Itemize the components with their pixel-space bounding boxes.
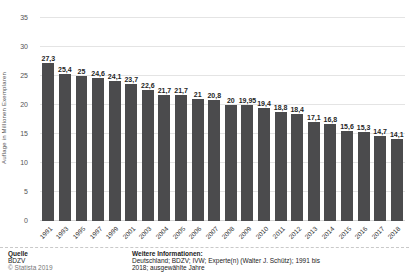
bar-value-label: 20,8 (207, 92, 221, 99)
plot-area: 27,3199125,4199325199524,6199724,1199923… (40, 18, 405, 221)
x-tick-label: 2007 (204, 225, 219, 240)
bar: 25,4 (59, 74, 71, 221)
bar-value-label: 14,7 (373, 128, 387, 135)
bar-slot: 14,12018 (388, 18, 405, 221)
bar-value-label: 24,1 (108, 73, 122, 80)
x-tick-label: 2003 (138, 225, 153, 240)
x-tick-label: 2013 (304, 225, 319, 240)
x-tick-label: 1995 (71, 225, 86, 240)
bar: 21,7 (175, 95, 187, 221)
bar-slot: 19,42010 (256, 18, 273, 221)
bar-value-label: 21,7 (158, 87, 172, 94)
bar-value-label: 27,3 (41, 55, 55, 62)
bar-slot: 15,62015 (339, 18, 356, 221)
bar-value-label: 16,8 (324, 116, 338, 123)
info-heading: Weitere Informationen: (132, 250, 320, 257)
bar-value-label: 25,4 (58, 66, 72, 73)
bar-value-label: 21 (194, 91, 202, 98)
bar-slot: 20,82007 (206, 18, 223, 221)
y-tick-label: 20 (20, 101, 28, 109)
x-tick-label: 2015 (337, 225, 352, 240)
x-tick-label: 1993 (55, 225, 70, 240)
source-name: BDZV (8, 257, 53, 264)
bar-value-label: 21,7 (174, 87, 188, 94)
x-tick-label: 2010 (254, 225, 269, 240)
bar: 15,6 (341, 131, 353, 221)
y-tick-label: 10 (20, 159, 28, 167)
x-tick-label: 2008 (221, 225, 236, 240)
bar-slot: 251995 (73, 18, 90, 221)
bar: 18,4 (291, 114, 303, 221)
bar: 14,1 (391, 139, 403, 221)
bar-slot: 23,72001 (123, 18, 140, 221)
y-tick-label: 30 (20, 43, 28, 51)
x-tick-label: 2006 (187, 225, 202, 240)
info-line2: 2018; ausgewählte Jahre (132, 264, 320, 271)
x-tick-label: 2016 (353, 225, 368, 240)
bar: 21,7 (158, 95, 170, 221)
bar-value-label: 25 (78, 68, 86, 75)
bar-slot: 19,952009 (239, 18, 256, 221)
bar-slot: 17,12013 (306, 18, 323, 221)
bar-slot: 212006 (189, 18, 206, 221)
x-tick-label: 2011 (271, 225, 286, 240)
y-axis: 05101520253035 (0, 18, 34, 221)
x-tick-label: 1991 (38, 225, 53, 240)
bar: 19,95 (241, 105, 253, 221)
bar: 19,4 (258, 108, 270, 221)
bar: 18,8 (275, 112, 287, 221)
bar-slot: 21,72004 (156, 18, 173, 221)
y-tick-label: 5 (24, 188, 28, 196)
bar-value-label: 19,95 (239, 97, 257, 104)
bar-slot: 18,82011 (272, 18, 289, 221)
bar-slot: 21,72005 (173, 18, 190, 221)
bar-slot: 22,62003 (140, 18, 157, 221)
bar-slot: 18,42012 (289, 18, 306, 221)
bar: 22,6 (142, 90, 154, 221)
bar-slot: 15,32016 (355, 18, 372, 221)
bars: 27,3199125,4199325199524,6199724,1199923… (40, 18, 405, 221)
bar: 25 (76, 76, 88, 221)
bar: 21 (192, 99, 204, 221)
bar-value-label: 14,1 (390, 131, 404, 138)
bar-value-label: 17,1 (307, 114, 321, 121)
x-tick-label: 2001 (121, 225, 136, 240)
bar-slot: 16,82014 (322, 18, 339, 221)
y-tick-label: 15 (20, 130, 28, 138)
x-tick-label: 1999 (104, 225, 119, 240)
bar-slot: 202008 (223, 18, 240, 221)
bar: 17,1 (308, 122, 320, 221)
bar-slot: 24,11999 (106, 18, 123, 221)
bar-slot: 27,31991 (40, 18, 57, 221)
y-tick-label: 0 (24, 217, 28, 225)
info-block: Weitere Informationen: Deutschland; BDZV… (132, 250, 320, 272)
bar: 27,3 (42, 63, 54, 221)
x-tick-label: 1997 (88, 225, 103, 240)
bar-slot: 24,61997 (90, 18, 107, 221)
bar-value-label: 24,6 (91, 70, 105, 77)
chart-footer: Quelle BDZV © Statista 2019 Weitere Info… (0, 247, 409, 275)
statista-copyright: © Statista 2019 (8, 264, 53, 271)
x-tick-label: 2018 (387, 225, 402, 240)
bar: 14,7 (374, 136, 386, 221)
bar-value-label: 15,3 (357, 124, 371, 131)
bar-chart: Auflage in Millionen Exemplaren 05101520… (0, 0, 409, 247)
bar-slot: 25,41993 (57, 18, 74, 221)
x-tick-label: 2009 (237, 225, 252, 240)
source-block: Quelle BDZV © Statista 2019 (8, 250, 53, 272)
source-heading: Quelle (8, 250, 53, 257)
bar-value-label: 22,6 (141, 82, 155, 89)
info-line1: Deutschland; BDZV; IVW; Experte(n) (Walt… (132, 257, 320, 264)
bar: 23,7 (125, 84, 137, 221)
x-tick-label: 2012 (287, 225, 302, 240)
bar: 20,8 (208, 100, 220, 221)
y-tick-label: 35 (20, 14, 28, 22)
bar-value-label: 15,6 (340, 123, 354, 130)
bar-value-label: 20 (227, 97, 235, 104)
bar-slot: 14,72017 (372, 18, 389, 221)
bar: 24,1 (109, 81, 121, 221)
bar-value-label: 18,8 (274, 104, 288, 111)
bar-value-label: 19,4 (257, 100, 271, 107)
bar: 20 (225, 105, 237, 221)
bar: 24,6 (92, 78, 104, 221)
